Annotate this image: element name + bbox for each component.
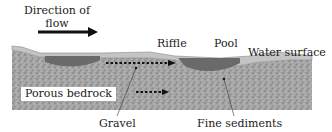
riffle-label: Riffle xyxy=(157,38,187,50)
pool-label: Pool xyxy=(214,38,238,50)
porous-bedrock-label: Porous bedrock xyxy=(21,87,116,101)
water-surface-label: Water surface xyxy=(248,47,326,59)
title-line-1: Direction of xyxy=(22,4,92,17)
title-line-2: flow xyxy=(22,17,92,30)
flow-direction-title: Direction of flow xyxy=(22,4,92,30)
gravel-label: Gravel xyxy=(99,118,136,130)
fine-sediments-label: Fine sediments xyxy=(197,118,282,130)
